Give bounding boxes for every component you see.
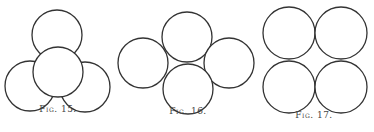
circle-2: [315, 7, 367, 59]
circle-1: [162, 12, 212, 62]
circle-1: [263, 7, 315, 59]
caption-fig-15: Fig. 15.: [39, 104, 76, 114]
circle-4: [33, 47, 83, 97]
circle-4: [315, 61, 367, 113]
caption-fig-17: Fig. 17.: [295, 110, 332, 120]
figure-17: [263, 7, 367, 113]
figure-16: [118, 12, 254, 114]
circle-3: [263, 61, 315, 113]
circle-2: [118, 38, 168, 88]
caption-fig-16: Fig. 16.: [169, 106, 206, 116]
figure-15: [5, 10, 110, 112]
